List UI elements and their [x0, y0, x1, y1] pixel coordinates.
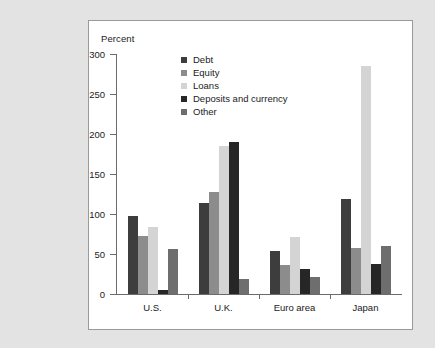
y-axis-tick [110, 294, 117, 295]
y-axis-tick-label: 250 [89, 89, 110, 100]
y-axis-tick [110, 94, 117, 95]
bar [158, 290, 168, 294]
screenshot-root: Percent DebtEquityLoansDeposits and curr… [0, 0, 435, 348]
y-axis-tick [110, 134, 117, 135]
y-axis-title: Percent [101, 33, 134, 44]
category-label-u-k: U.K. [214, 302, 232, 313]
bar [310, 277, 320, 294]
bar [168, 249, 178, 294]
y-axis-tick-label: 300 [89, 49, 110, 60]
bar [351, 248, 361, 294]
category-label-u-s: U.S. [143, 302, 161, 313]
chart-panel: Percent DebtEquityLoansDeposits and curr… [88, 20, 413, 330]
y-axis-tick [110, 174, 117, 175]
bar [381, 246, 391, 294]
bar [300, 269, 310, 294]
y-axis-tick-label: 100 [89, 209, 110, 220]
bar [229, 142, 239, 294]
y-axis-tick [110, 254, 117, 255]
bar [138, 236, 148, 294]
x-axis-tick [188, 294, 189, 299]
bar [148, 227, 158, 294]
y-axis-tick-label: 150 [89, 169, 110, 180]
category-label-japan: Japan [353, 302, 379, 313]
bar [341, 199, 351, 294]
y-axis-tick [110, 214, 117, 215]
y-axis-tick-label: 0 [100, 289, 110, 300]
y-axis-tick-label: 50 [94, 249, 110, 260]
bar [239, 279, 249, 294]
x-axis-tick [259, 294, 260, 299]
page-margin-top [0, 0, 435, 20]
bar [209, 192, 219, 294]
bar [290, 237, 300, 294]
bar [128, 216, 138, 294]
bar [219, 146, 229, 294]
bar [280, 265, 290, 294]
x-axis-tick [330, 294, 331, 299]
page-margin-bottom [0, 330, 435, 348]
bar [361, 66, 371, 294]
plot-area [117, 54, 401, 294]
bar [371, 264, 381, 294]
y-axis-tick [110, 54, 117, 55]
bar [199, 203, 209, 294]
page-margin-left [0, 0, 88, 348]
bar [270, 251, 280, 294]
category-label-euro-area: Euro area [274, 302, 316, 313]
y-axis-tick-label: 200 [89, 129, 110, 140]
page-margin-right [413, 0, 435, 348]
